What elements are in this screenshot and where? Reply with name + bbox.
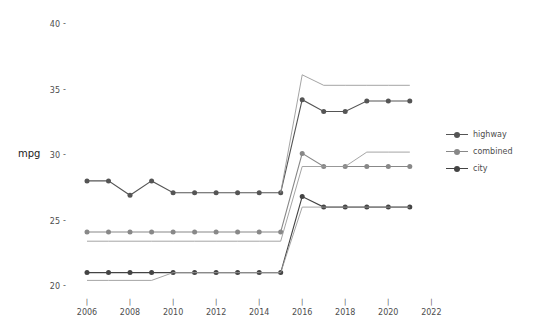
data-point (149, 270, 154, 275)
data-point (85, 270, 90, 275)
data-point (128, 193, 133, 198)
data-point (171, 230, 176, 235)
data-point (364, 164, 369, 169)
data-point (192, 230, 197, 235)
legend-label: city (473, 164, 488, 173)
data-point (235, 190, 240, 195)
legend-label: combined (473, 147, 512, 156)
data-point (407, 99, 412, 104)
data-point (128, 230, 133, 235)
legend-marker-icon (446, 164, 468, 173)
data-point (407, 164, 412, 169)
data-point (214, 230, 219, 235)
line-chart: mpg 20-25-30-35-40- 2006|2008|2010|2012|… (0, 0, 533, 332)
data-point (321, 109, 326, 114)
data-point (257, 230, 262, 235)
data-point (106, 230, 111, 235)
data-point (343, 109, 348, 114)
data-point (149, 178, 154, 183)
legend-item-city[interactable]: city (446, 160, 512, 177)
data-point (149, 230, 154, 235)
data-point (192, 190, 197, 195)
data-point (106, 270, 111, 275)
data-point (257, 190, 262, 195)
data-point (235, 230, 240, 235)
data-point (386, 164, 391, 169)
series-line (87, 152, 410, 241)
series-line (87, 100, 410, 196)
data-point (214, 190, 219, 195)
series-highway (85, 97, 413, 198)
data-point (85, 230, 90, 235)
series-line (87, 207, 410, 280)
series-line (87, 197, 410, 273)
legend-label: highway (473, 130, 507, 139)
data-point (171, 190, 176, 195)
legend-marker-icon (446, 147, 468, 156)
legend-marker-icon (446, 130, 468, 139)
data-point (300, 194, 305, 199)
data-point (300, 97, 305, 102)
data-point (364, 99, 369, 104)
data-point (85, 178, 90, 183)
series-city-reference (87, 207, 410, 280)
data-point (106, 178, 111, 183)
data-point (386, 99, 391, 104)
legend: highwaycombinedcity (446, 126, 512, 177)
legend-item-combined[interactable]: combined (446, 143, 512, 160)
data-point (128, 270, 133, 275)
series-combined-reference (87, 152, 410, 241)
series-city (85, 194, 413, 275)
data-point (300, 151, 305, 156)
legend-item-highway[interactable]: highway (446, 126, 512, 143)
